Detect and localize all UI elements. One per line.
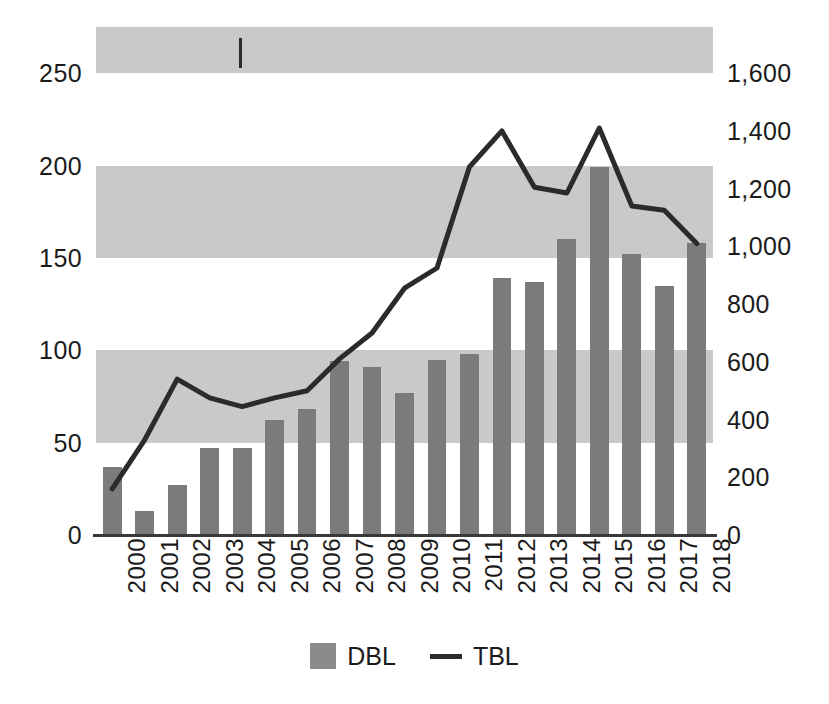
right-axis-tick: 1,600 <box>727 59 792 88</box>
legend-entry-tbl[interactable]: TBL <box>430 642 519 671</box>
right-axis-tick: 600 <box>727 347 770 376</box>
x-axis-tick: 2017 <box>676 538 702 630</box>
x-axis-tick: 2000 <box>124 538 150 630</box>
left-axis: 050100150200250 <box>0 0 82 704</box>
legend-swatch-square-icon <box>310 643 336 669</box>
x-axis-tick: 2015 <box>611 538 637 630</box>
plot-area <box>96 27 713 535</box>
x-axis-tick: 2013 <box>546 538 572 630</box>
right-axis-tick: 1,000 <box>727 232 792 261</box>
x-axis-tick: 2014 <box>579 538 605 630</box>
line-series-tbl <box>96 27 713 535</box>
x-axis-tick: 2016 <box>644 538 670 630</box>
x-axis-tick: 2005 <box>287 538 313 630</box>
tbl-line-path <box>112 128 697 489</box>
right-axis-tick: 400 <box>727 405 770 434</box>
x-axis-labels: 2000200120022003200420052006200720082009… <box>96 538 713 630</box>
x-axis-baseline <box>93 534 717 537</box>
x-axis-tick: 2012 <box>514 538 540 630</box>
left-axis-tick: 250 <box>39 59 82 88</box>
legend-label-tbl: TBL <box>473 642 519 671</box>
right-axis-tick: 1,200 <box>727 174 792 203</box>
legend-entry-dbl[interactable]: DBL <box>310 642 396 671</box>
left-axis-tick: 50 <box>53 428 82 457</box>
left-axis-tick: 150 <box>39 243 82 272</box>
legend-swatch-line-icon <box>430 654 462 659</box>
x-axis-tick: 2011 <box>481 538 507 630</box>
x-axis-tick: 2010 <box>449 538 475 630</box>
x-axis-tick: 2001 <box>157 538 183 630</box>
left-axis-tick: 0 <box>68 521 82 550</box>
right-axis-tick: 200 <box>727 463 770 492</box>
x-axis-tick: 2002 <box>189 538 215 630</box>
right-axis-tick: 800 <box>727 290 770 319</box>
legend-label-dbl: DBL <box>347 642 396 671</box>
x-axis-tick: 2007 <box>352 538 378 630</box>
x-axis-tick: 2004 <box>254 538 280 630</box>
x-axis-tick: 2008 <box>384 538 410 630</box>
chart-container: 050100150200250 02004006008001,0001,2001… <box>0 0 829 704</box>
right-axis: 02004006008001,0001,2001,4001,600 <box>727 0 829 704</box>
left-axis-tick: 100 <box>39 336 82 365</box>
stray-tick-mark <box>239 38 242 68</box>
x-axis-tick: 2009 <box>417 538 443 630</box>
chart-legend: DBL TBL <box>0 634 829 678</box>
x-axis-tick: 2018 <box>709 538 735 630</box>
x-axis-tick: 2003 <box>222 538 248 630</box>
left-axis-tick: 200 <box>39 151 82 180</box>
x-axis-tick: 2006 <box>319 538 345 630</box>
right-axis-tick: 1,400 <box>727 116 792 145</box>
